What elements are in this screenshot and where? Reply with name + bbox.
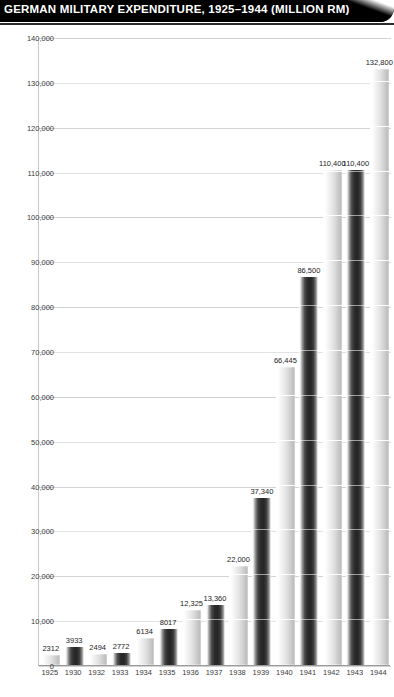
- bar[interactable]: [88, 654, 107, 665]
- bar[interactable]: [135, 638, 154, 666]
- bar-gridline-stripe: [346, 350, 365, 351]
- bar-slot: 6134: [133, 37, 156, 665]
- bar-slot: 22,000: [227, 37, 250, 665]
- bar-gridline-stripe: [299, 485, 318, 486]
- bar-slot: 3933: [63, 37, 86, 665]
- bar[interactable]: [206, 605, 225, 665]
- bar-gridline-stripe: [370, 440, 389, 441]
- x-axis-label: 1942: [320, 668, 343, 677]
- bar-chart: 23123933249427726134801712,32513,36022,0…: [0, 26, 394, 697]
- bar-gridline-stripe: [299, 305, 318, 306]
- bar-gridline-stripe: [276, 574, 295, 575]
- bar-gridline-stripe: [323, 529, 342, 530]
- x-axis-label: 1930: [62, 668, 85, 677]
- bar[interactable]: [299, 277, 318, 665]
- bar-gridline-stripe: [346, 260, 365, 261]
- x-axis-label: 1944: [367, 668, 390, 677]
- title-underline: [0, 23, 394, 25]
- bar-series: 23123933249427726134801712,32513,36022,0…: [39, 37, 391, 665]
- y-axis-label: 40,000: [20, 483, 54, 492]
- bar[interactable]: [112, 653, 131, 665]
- bar-gridline-stripe: [346, 305, 365, 306]
- bar-value-label: 132,800: [356, 58, 394, 67]
- x-axis-label: 1935: [156, 668, 179, 677]
- y-axis-label: 70,000: [20, 348, 54, 357]
- bar-gridline-stripe: [323, 619, 342, 620]
- bar-gridline-stripe: [370, 260, 389, 261]
- bar-slot: 86,500: [297, 37, 320, 665]
- bar-gridline-stripe: [299, 529, 318, 530]
- bar-gridline-stripe: [346, 171, 365, 172]
- bar[interactable]: [370, 69, 389, 665]
- x-axis-label: 1938: [226, 668, 249, 677]
- bar-slot: 2772: [110, 37, 133, 665]
- x-axis-label: 1943: [343, 668, 366, 677]
- x-axis-label: 1934: [132, 668, 155, 677]
- bar-gridline-stripe: [252, 619, 271, 620]
- y-axis-label: 130,000: [20, 79, 54, 88]
- bar-gridline-stripe: [323, 215, 342, 216]
- bar-gridline-stripe: [299, 619, 318, 620]
- bar-gridline-stripe: [370, 350, 389, 351]
- bar[interactable]: [182, 610, 201, 665]
- bar-gridline-stripe: [323, 305, 342, 306]
- bar-gridline-stripe: [323, 440, 342, 441]
- y-axis-label: 120,000: [20, 124, 54, 133]
- bar-slot: 12,325: [180, 37, 203, 665]
- x-axis-label: 1933: [109, 668, 132, 677]
- bar-gridline-stripe: [299, 440, 318, 441]
- bar-gridline-stripe: [276, 440, 295, 441]
- bar-gridline-stripe: [299, 350, 318, 351]
- bar-gridline-stripe: [323, 350, 342, 351]
- bar-slot: 110,400: [344, 37, 367, 665]
- x-axis-label: 1925: [38, 668, 61, 677]
- bar-gridline-stripe: [346, 619, 365, 620]
- bar-gridline-stripe: [370, 81, 389, 82]
- bar-gridline-stripe: [229, 574, 248, 575]
- bar-gridline-stripe: [276, 619, 295, 620]
- bar-gridline-stripe: [299, 395, 318, 396]
- bar-gridline-stripe: [346, 395, 365, 396]
- bar[interactable]: [252, 498, 271, 665]
- bar-gridline-stripe: [370, 485, 389, 486]
- bar[interactable]: [276, 367, 295, 665]
- bar-gridline-stripe: [370, 395, 389, 396]
- x-axis-label: 1937: [203, 668, 226, 677]
- bar-gridline-stripe: [346, 485, 365, 486]
- bar-slot: 37,340: [250, 37, 273, 665]
- bar-gridline-stripe: [323, 395, 342, 396]
- y-axis-label: 100,000: [20, 213, 54, 222]
- bar[interactable]: [159, 629, 178, 665]
- bar-gridline-stripe: [370, 529, 389, 530]
- bar-slot: 8017: [157, 37, 180, 665]
- plot-area: 23123933249427726134801712,32513,36022,0…: [38, 38, 390, 666]
- bar-gridline-stripe: [299, 574, 318, 575]
- y-axis-label: 50,000: [20, 438, 54, 447]
- bar-gridline-stripe: [276, 485, 295, 486]
- y-axis-label: 110,000: [20, 169, 54, 178]
- bar-gridline-stripe: [346, 529, 365, 530]
- bar-gridline-stripe: [323, 485, 342, 486]
- bar-gridline-stripe: [276, 529, 295, 530]
- bar-gridline-stripe: [206, 619, 225, 620]
- bar-gridline-stripe: [346, 215, 365, 216]
- bar-gridline-stripe: [323, 260, 342, 261]
- y-axis-label: 20,000: [20, 572, 54, 581]
- bar-slot: 110,400: [321, 37, 344, 665]
- bar-gridline-stripe: [370, 305, 389, 306]
- bar[interactable]: [346, 170, 365, 665]
- bar-gridline-stripe: [370, 215, 389, 216]
- y-axis-label: 140,000: [20, 34, 54, 43]
- bar[interactable]: [229, 566, 248, 665]
- x-axis-label: 1939: [249, 668, 272, 677]
- y-axis-label: 30,000: [20, 527, 54, 536]
- x-axis-label: 1936: [179, 668, 202, 677]
- bar-gridline-stripe: [276, 395, 295, 396]
- y-axis-label: 60,000: [20, 393, 54, 402]
- y-axis-label: 10,000: [20, 617, 54, 626]
- bar-gridline-stripe: [252, 574, 271, 575]
- bar-gridline-stripe: [370, 574, 389, 575]
- bar-slot: 66,445: [274, 37, 297, 665]
- bar[interactable]: [323, 170, 342, 665]
- bar-gridline-stripe: [370, 126, 389, 127]
